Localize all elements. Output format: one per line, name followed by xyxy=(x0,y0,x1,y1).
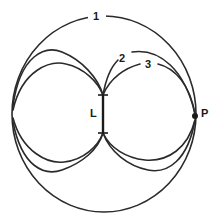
field-diagram: 1 2 3 L P xyxy=(0,0,218,224)
curve-2-label: 2 xyxy=(119,52,125,64)
diagram-canvas: 1 2 3 L P xyxy=(0,0,218,224)
point-p xyxy=(192,113,198,119)
segment-l xyxy=(98,95,108,133)
point-p-label: P xyxy=(201,107,208,119)
curve-1-label: 1 xyxy=(93,10,99,22)
segment-l-label: L xyxy=(90,107,97,119)
curve-3-label: 3 xyxy=(145,58,151,70)
